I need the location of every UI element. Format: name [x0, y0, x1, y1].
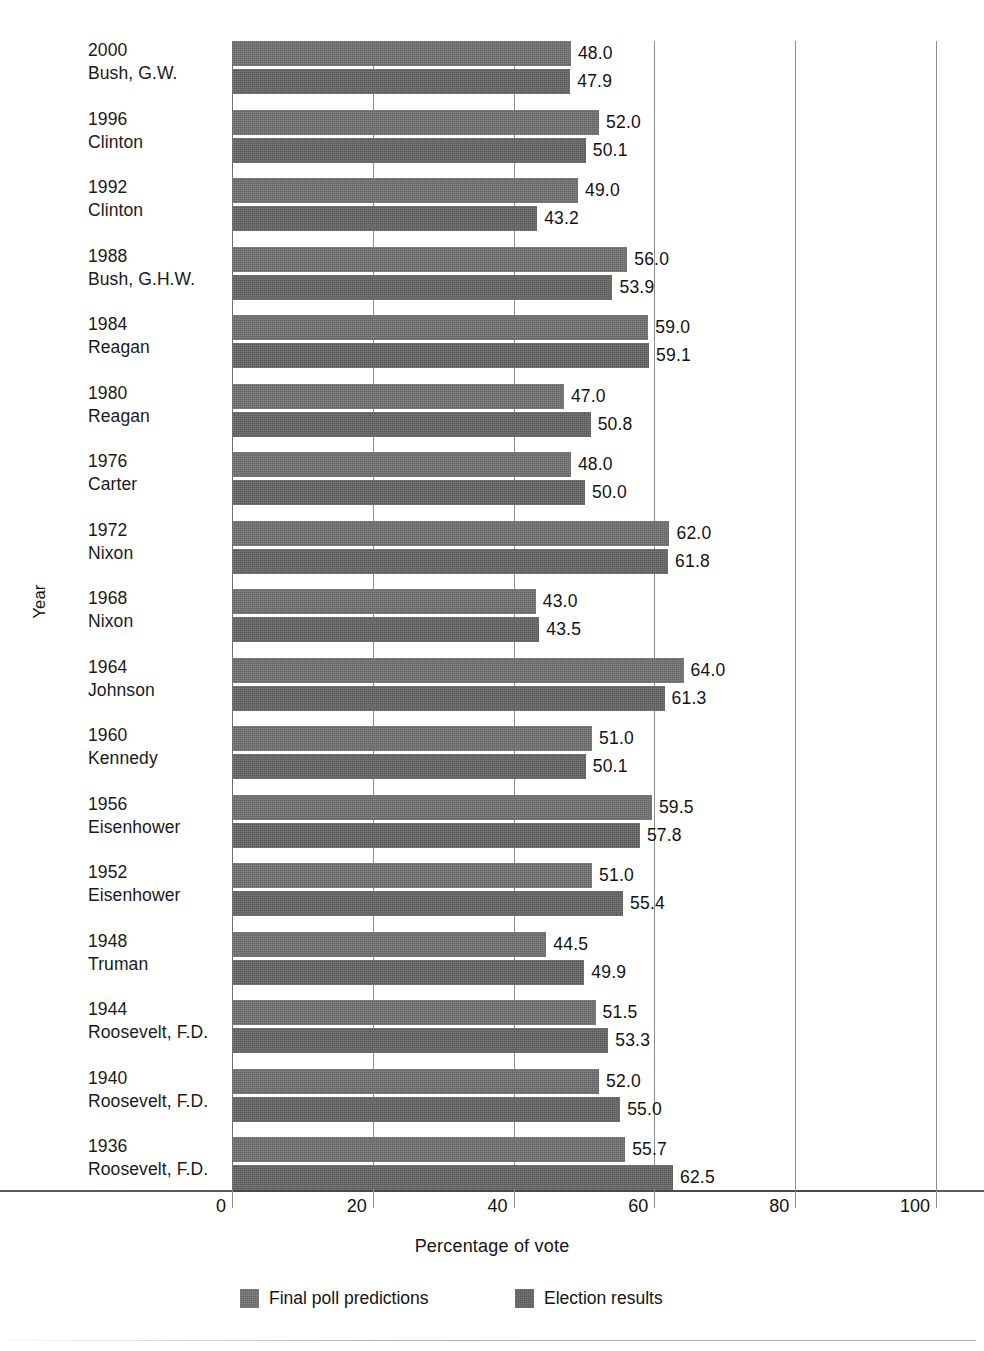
bar-result[interactable]	[233, 891, 623, 916]
bar-row: 56.0	[233, 247, 937, 272]
bar-value-label: 43.2	[537, 206, 579, 231]
bar-value-label: 51.0	[592, 726, 634, 751]
bar-prediction[interactable]	[233, 658, 684, 683]
bar-result[interactable]	[233, 480, 585, 505]
bar-prediction[interactable]	[233, 247, 627, 272]
bar-result[interactable]	[233, 754, 586, 779]
category-candidate: Bush, G.H.W.	[88, 268, 228, 291]
bar-value-label: 62.0	[669, 521, 711, 546]
category-label: 1984Reagan	[88, 313, 228, 359]
category-year: 1952	[88, 861, 228, 884]
category-candidate: Bush, G.W.	[88, 62, 228, 85]
tick-mark-100	[936, 1190, 937, 1208]
bar-group: 1992Clinton49.043.2	[0, 178, 984, 231]
bar-value-label: 55.0	[620, 1097, 662, 1122]
bar-value-label: 64.0	[684, 658, 726, 683]
bar-row: 47.0	[233, 384, 937, 409]
tick-mark-20	[373, 1190, 374, 1208]
category-label: 1960Kennedy	[88, 724, 228, 770]
bar-prediction[interactable]	[233, 726, 592, 751]
bar-prediction[interactable]	[233, 795, 652, 820]
bar-row: 50.0	[233, 480, 937, 505]
category-candidate: Nixon	[88, 610, 228, 633]
bar-result[interactable]	[233, 206, 537, 231]
category-candidate: Kennedy	[88, 747, 228, 770]
category-candidate: Clinton	[88, 199, 228, 222]
bar-group: 1940Roosevelt, F.D.52.055.0	[0, 1069, 984, 1122]
category-candidate: Nixon	[88, 542, 228, 565]
bar-result[interactable]	[233, 69, 570, 94]
bar-prediction[interactable]	[233, 1069, 599, 1094]
bar-result[interactable]	[233, 549, 668, 574]
bar-value-label: 50.8	[591, 412, 633, 437]
tick-label-20: 20	[347, 1196, 373, 1217]
category-candidate: Clinton	[88, 131, 228, 154]
tick-label-0: 0	[216, 1196, 232, 1217]
bar-prediction[interactable]	[233, 110, 599, 135]
bar-value-label: 56.0	[627, 247, 669, 272]
bar-result[interactable]	[233, 686, 665, 711]
bar-row: 51.0	[233, 726, 937, 751]
category-year: 1992	[88, 176, 228, 199]
bar-value-label: 59.1	[649, 343, 691, 368]
category-candidate: Truman	[88, 953, 228, 976]
bar-result[interactable]	[233, 275, 612, 300]
bar-prediction[interactable]	[233, 1000, 596, 1025]
bar-value-label: 53.9	[612, 275, 654, 300]
bar-prediction[interactable]	[233, 452, 571, 477]
category-label: 1948Truman	[88, 930, 228, 976]
bar-group: 1948Truman44.549.9	[0, 932, 984, 985]
bar-prediction[interactable]	[233, 589, 536, 614]
category-label: 1996Clinton	[88, 108, 228, 154]
bar-prediction[interactable]	[233, 863, 592, 888]
bar-group: 1972Nixon62.061.8	[0, 521, 984, 574]
category-label: 2000Bush, G.W.	[88, 39, 228, 85]
category-candidate: Roosevelt, F.D.	[88, 1158, 228, 1181]
category-year: 1996	[88, 108, 228, 131]
x-axis-line	[232, 1190, 937, 1192]
plot-area: 2000Bush, G.W.48.047.91996Clinton52.050.…	[0, 0, 984, 1200]
bar-result[interactable]	[233, 412, 591, 437]
bar-result[interactable]	[233, 138, 586, 163]
bar-prediction[interactable]	[233, 521, 669, 546]
bar-result[interactable]	[233, 823, 640, 848]
bar-result[interactable]	[233, 1097, 620, 1122]
bar-row: 61.8	[233, 549, 937, 574]
bar-group: 2000Bush, G.W.48.047.9	[0, 41, 984, 94]
bar-value-label: 47.0	[564, 384, 606, 409]
bar-prediction[interactable]	[233, 178, 578, 203]
bar-result[interactable]	[233, 1165, 673, 1190]
legend-label: Election results	[544, 1288, 663, 1309]
category-year: 1972	[88, 519, 228, 542]
y-axis-title: Year	[30, 557, 49, 647]
bar-result[interactable]	[233, 1028, 608, 1053]
bar-prediction[interactable]	[233, 384, 564, 409]
category-label: 1956Eisenhower	[88, 793, 228, 839]
category-candidate: Johnson	[88, 679, 228, 702]
legend-item-final-poll-predictions: Final poll predictions	[240, 1288, 429, 1309]
category-year: 1936	[88, 1135, 228, 1158]
tick-label-80: 80	[769, 1196, 795, 1217]
category-candidate: Reagan	[88, 405, 228, 428]
bar-row: 62.0	[233, 521, 937, 546]
bar-group: 1964Johnson64.061.3	[0, 658, 984, 711]
bar-prediction[interactable]	[233, 41, 571, 66]
bar-row: 53.9	[233, 275, 937, 300]
category-label: 1980Reagan	[88, 382, 228, 428]
category-label: 1936Roosevelt, F.D.	[88, 1135, 228, 1181]
category-candidate: Roosevelt, F.D.	[88, 1021, 228, 1044]
bar-row: 64.0	[233, 658, 937, 683]
bar-value-label: 57.8	[640, 823, 682, 848]
bar-result[interactable]	[233, 617, 539, 642]
legend-item-election-results: Election results	[515, 1288, 663, 1309]
bar-prediction[interactable]	[233, 1137, 625, 1162]
category-year: 1988	[88, 245, 228, 268]
bar-result[interactable]	[233, 960, 584, 985]
bar-value-label: 50.1	[586, 138, 628, 163]
bar-prediction[interactable]	[233, 932, 546, 957]
chart-page: 2000Bush, G.W.48.047.91996Clinton52.050.…	[0, 0, 984, 1351]
bar-result[interactable]	[233, 343, 649, 368]
bar-prediction[interactable]	[233, 315, 648, 340]
category-label: 1964Johnson	[88, 656, 228, 702]
x-axis-title: Percentage of vote	[0, 1236, 984, 1257]
